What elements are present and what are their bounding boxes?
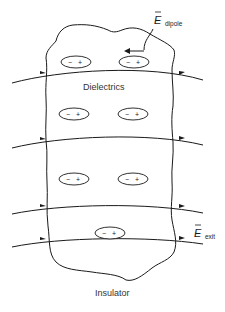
dipole: − + [119, 56, 149, 68]
svg-text:−: − [125, 111, 129, 118]
e-dipole-arrowhead [124, 48, 130, 54]
e-dipole-label: E dipole [154, 12, 183, 28]
svg-text:+: + [76, 111, 80, 118]
dipole: − + [59, 108, 89, 120]
e-dipole-subscript: dipole [165, 20, 183, 28]
svg-text:−: − [126, 59, 130, 66]
dipole: − + [118, 173, 148, 185]
insulator-label: Insulator [95, 288, 130, 298]
dipole: − + [118, 108, 148, 120]
svg-text:+: + [135, 111, 139, 118]
e-dipole-symbol: E [154, 14, 162, 26]
svg-text:−: − [66, 111, 70, 118]
e-exit-label: E exit [194, 225, 215, 240]
svg-text:−: − [66, 176, 70, 183]
svg-text:+: + [135, 176, 139, 183]
svg-text:−: − [102, 230, 106, 237]
dipole: − + [61, 56, 91, 68]
svg-text:+: + [76, 176, 80, 183]
svg-text:−: − [68, 59, 72, 66]
field-line-4 [12, 239, 203, 247]
e-exit-symbol: E [194, 227, 202, 239]
dielectrics-label: Dielectrics [83, 82, 125, 92]
svg-text:+: + [112, 230, 116, 237]
dipole: − + [95, 227, 125, 239]
e-exit-subscript: exit [205, 233, 215, 240]
dielectric-diagram: E dipole E exit − + − + − + − + − + − + [0, 0, 225, 312]
svg-text:+: + [136, 59, 140, 66]
svg-text:−: − [125, 176, 129, 183]
e-dipole-pointer [144, 29, 153, 50]
field-arrows [40, 71, 185, 240]
dipole: − + [59, 173, 89, 185]
svg-text:+: + [78, 59, 82, 66]
